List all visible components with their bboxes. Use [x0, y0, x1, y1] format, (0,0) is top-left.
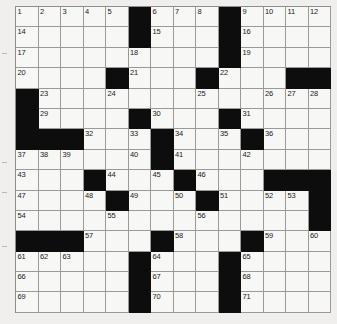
grid-cell[interactable]: 1: [16, 7, 39, 27]
grid-cell[interactable]: [84, 89, 107, 109]
grid-cell[interactable]: 65: [241, 252, 264, 272]
grid-cell[interactable]: [286, 150, 309, 170]
grid-cell[interactable]: [106, 109, 129, 129]
grid-cell[interactable]: [309, 48, 332, 68]
grid-cell[interactable]: 24: [106, 89, 129, 109]
grid-cell[interactable]: 19: [241, 48, 264, 68]
grid-cell[interactable]: 68: [241, 272, 264, 292]
grid-cell[interactable]: [106, 252, 129, 272]
grid-cell[interactable]: 9: [241, 7, 264, 27]
grid-cell[interactable]: 36: [264, 129, 287, 149]
grid-cell[interactable]: [196, 48, 219, 68]
grid-cell[interactable]: [39, 27, 62, 47]
grid-cell[interactable]: 45: [151, 170, 174, 190]
grid-cell[interactable]: [264, 68, 287, 88]
grid-cell[interactable]: [196, 272, 219, 292]
grid-cell[interactable]: [106, 129, 129, 149]
grid-cell[interactable]: [241, 68, 264, 88]
grid-cell[interactable]: [39, 68, 62, 88]
grid-cell[interactable]: 6: [151, 7, 174, 27]
grid-cell[interactable]: 35: [219, 129, 242, 149]
grid-cell[interactable]: [309, 252, 332, 272]
grid-cell[interactable]: [196, 129, 219, 149]
grid-cell[interactable]: 21: [129, 68, 152, 88]
grid-cell[interactable]: [129, 211, 152, 231]
grid-cell[interactable]: [241, 211, 264, 231]
grid-cell[interactable]: [196, 231, 219, 251]
grid-cell[interactable]: 43: [16, 170, 39, 190]
grid-cell[interactable]: 38: [39, 150, 62, 170]
grid-cell[interactable]: [84, 150, 107, 170]
grid-cell[interactable]: [106, 272, 129, 292]
grid-cell[interactable]: [61, 89, 84, 109]
grid-cell[interactable]: 57: [84, 231, 107, 251]
grid-cell[interactable]: 58: [174, 231, 197, 251]
grid-cell[interactable]: [84, 68, 107, 88]
grid-cell[interactable]: 49: [129, 191, 152, 211]
grid-cell[interactable]: [174, 68, 197, 88]
grid-cell[interactable]: [151, 48, 174, 68]
grid-cell[interactable]: [61, 27, 84, 47]
grid-cell[interactable]: [84, 109, 107, 129]
grid-cell[interactable]: [196, 109, 219, 129]
grid-cell[interactable]: [241, 191, 264, 211]
grid-cell[interactable]: [309, 272, 332, 292]
grid-cell[interactable]: [61, 211, 84, 231]
grid-cell[interactable]: 48: [84, 191, 107, 211]
grid-cell[interactable]: [264, 211, 287, 231]
grid-cell[interactable]: 32: [84, 129, 107, 149]
grid-cell[interactable]: 27: [286, 89, 309, 109]
grid-cell[interactable]: [174, 252, 197, 272]
grid-cell[interactable]: 31: [241, 109, 264, 129]
grid-cell[interactable]: 61: [16, 252, 39, 272]
grid-cell[interactable]: [61, 272, 84, 292]
grid-cell[interactable]: [39, 48, 62, 68]
grid-cell[interactable]: [84, 252, 107, 272]
grid-cell[interactable]: 8: [196, 7, 219, 27]
grid-cell[interactable]: 40: [129, 150, 152, 170]
grid-cell[interactable]: [286, 109, 309, 129]
grid-cell[interactable]: [84, 292, 107, 312]
grid-cell[interactable]: 22: [219, 68, 242, 88]
grid-cell[interactable]: 54: [16, 211, 39, 231]
grid-cell[interactable]: [196, 292, 219, 312]
grid-cell[interactable]: 50: [174, 191, 197, 211]
grid-cell[interactable]: 56: [196, 211, 219, 231]
grid-cell[interactable]: 3: [61, 7, 84, 27]
grid-cell[interactable]: [219, 150, 242, 170]
grid-cell[interactable]: [286, 292, 309, 312]
grid-cell[interactable]: [151, 191, 174, 211]
grid-cell[interactable]: [174, 27, 197, 47]
grid-cell[interactable]: 12: [309, 7, 332, 27]
grid-cell[interactable]: [286, 129, 309, 149]
grid-cell[interactable]: [264, 27, 287, 47]
grid-cell[interactable]: [264, 252, 287, 272]
grid-cell[interactable]: 20: [16, 68, 39, 88]
grid-cell[interactable]: [309, 27, 332, 47]
grid-cell[interactable]: [241, 170, 264, 190]
grid-cell[interactable]: [264, 48, 287, 68]
grid-cell[interactable]: [286, 27, 309, 47]
grid-cell[interactable]: [174, 292, 197, 312]
grid-cell[interactable]: [106, 27, 129, 47]
grid-cell[interactable]: [174, 211, 197, 231]
grid-cell[interactable]: [196, 252, 219, 272]
grid-cell[interactable]: [309, 129, 332, 149]
crossword-grid[interactable]: 1234567891011121415161718192021222324252…: [15, 6, 331, 313]
grid-cell[interactable]: [39, 191, 62, 211]
grid-cell[interactable]: [39, 292, 62, 312]
grid-cell[interactable]: 30: [151, 109, 174, 129]
grid-cell[interactable]: 7: [174, 7, 197, 27]
grid-cell[interactable]: [286, 211, 309, 231]
grid-cell[interactable]: 11: [286, 7, 309, 27]
grid-cell[interactable]: 55: [106, 211, 129, 231]
grid-cell[interactable]: [151, 68, 174, 88]
grid-cell[interactable]: 14: [16, 27, 39, 47]
grid-cell[interactable]: 69: [16, 292, 39, 312]
grid-cell[interactable]: 67: [151, 272, 174, 292]
grid-cell[interactable]: 46: [196, 170, 219, 190]
grid-cell[interactable]: 51: [219, 191, 242, 211]
grid-cell[interactable]: 28: [309, 89, 332, 109]
grid-cell[interactable]: [309, 292, 332, 312]
grid-cell[interactable]: [129, 170, 152, 190]
